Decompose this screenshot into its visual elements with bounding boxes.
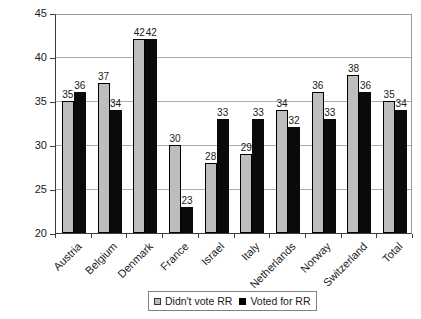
y-axis-tick xyxy=(50,14,55,15)
bar-voted-rr-belgium xyxy=(110,110,122,233)
y-axis-label: 20 xyxy=(20,227,47,240)
y-axis-label: 35 xyxy=(20,95,47,108)
bar-voted-rr-italy xyxy=(252,119,264,233)
y-axis-tick xyxy=(50,190,55,191)
y-axis-tick xyxy=(50,146,55,147)
x-axis-tick xyxy=(412,234,413,238)
bar-voted-rr-switzerland xyxy=(359,92,371,233)
plot-area: 3536373442423023283329333432363338363534 xyxy=(55,14,412,234)
bar-value-label: 37 xyxy=(94,71,114,82)
bar-value-label: 23 xyxy=(177,195,197,206)
y-axis-label: 45 xyxy=(20,7,47,20)
bar-voted-rr-total xyxy=(395,110,407,233)
bar-value-label: 36 xyxy=(70,80,90,91)
x-axis-label: Israel xyxy=(199,240,227,268)
x-axis-tick xyxy=(198,234,199,238)
bar-voted-rr-norway xyxy=(324,119,336,233)
bar-value-label: 36 xyxy=(308,80,328,91)
y-axis-label: 30 xyxy=(20,139,47,152)
legend-label-voted: Voted for RR xyxy=(250,295,310,307)
x-axis-label: Norway xyxy=(298,240,333,275)
y-axis-label: 25 xyxy=(20,183,47,196)
bar-didnt-vote-rr-italy xyxy=(240,154,252,233)
x-axis-tick xyxy=(162,234,163,238)
bar-chart: 3536373442423023283329333432363338363534… xyxy=(0,0,421,319)
bar-value-label: 42 xyxy=(141,27,161,38)
bar-didnt-vote-rr-total xyxy=(383,101,395,233)
bar-value-label: 32 xyxy=(284,115,304,126)
legend-swatch-didnt-vote xyxy=(154,298,161,305)
bar-value-label: 30 xyxy=(165,133,185,144)
bar-value-label: 34 xyxy=(106,98,126,109)
x-axis-label: Total xyxy=(380,240,405,265)
x-axis-tick xyxy=(269,234,270,238)
x-axis-tick xyxy=(305,234,306,238)
bar-didnt-vote-rr-israel xyxy=(205,163,217,233)
bar-value-label: 38 xyxy=(343,63,363,74)
x-axis-tick xyxy=(91,234,92,238)
x-axis-tick xyxy=(55,234,56,238)
x-axis-label: Austria xyxy=(51,240,84,273)
bar-voted-rr-austria xyxy=(74,92,86,233)
x-axis-tick xyxy=(126,234,127,238)
bar-voted-rr-denmark xyxy=(145,39,157,233)
x-axis-label: France xyxy=(158,240,191,273)
y-axis-label: 40 xyxy=(20,51,47,64)
x-axis-tick xyxy=(341,234,342,238)
gridline xyxy=(56,57,411,58)
bar-voted-rr-israel xyxy=(217,119,229,233)
bar-value-label: 33 xyxy=(248,107,268,118)
legend-swatch-voted xyxy=(239,298,246,305)
bar-value-label: 33 xyxy=(213,107,233,118)
bar-value-label: 34 xyxy=(391,98,411,109)
bar-didnt-vote-rr-switzerland xyxy=(347,75,359,233)
bar-didnt-vote-rr-austria xyxy=(62,101,74,233)
legend: Didn't vote RR Voted for RR xyxy=(148,291,317,311)
bar-value-label: 34 xyxy=(272,98,292,109)
bar-value-label: 36 xyxy=(355,80,375,91)
x-axis-label: Denmark xyxy=(115,240,155,280)
y-axis-tick xyxy=(50,58,55,59)
bar-voted-rr-netherlands xyxy=(288,127,300,233)
x-axis-tick xyxy=(376,234,377,238)
bar-didnt-vote-rr-denmark xyxy=(133,39,145,233)
y-axis-tick xyxy=(50,102,55,103)
bar-didnt-vote-rr-france xyxy=(169,145,181,233)
bar-didnt-vote-rr-netherlands xyxy=(276,110,288,233)
x-axis-label: Italy xyxy=(239,240,262,263)
legend-label-didnt-vote: Didn't vote RR xyxy=(165,295,232,307)
legend-item-voted: Voted for RR xyxy=(239,295,310,307)
bar-voted-rr-france xyxy=(181,207,193,233)
x-axis-tick xyxy=(234,234,235,238)
x-axis-label: Belgium xyxy=(82,240,119,277)
bar-value-label: 33 xyxy=(320,107,340,118)
legend-item-didnt-vote: Didn't vote RR xyxy=(154,295,232,307)
